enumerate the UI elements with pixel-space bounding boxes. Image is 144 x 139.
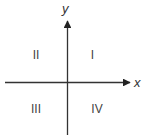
quadrant-label-iii: III xyxy=(31,102,41,116)
quadrant-label-i: I xyxy=(91,48,94,62)
y-axis-label: y xyxy=(61,1,70,16)
x-axis-label: x xyxy=(133,75,141,90)
quadrant-label-iv: IV xyxy=(91,102,102,116)
coordinate-plane-diagram: x y II I III IV xyxy=(0,0,144,139)
quadrant-label-ii: II xyxy=(33,48,40,62)
